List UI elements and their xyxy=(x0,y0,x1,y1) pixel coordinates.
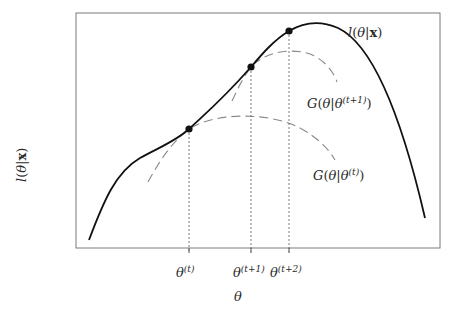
point-theta-t xyxy=(185,125,192,132)
em-diagram: l(θ|x) G(θ|θ(t+1)) G(θ|θ(t)) θ(t) θ(t+1)… xyxy=(0,0,460,313)
surrogate-curve-t1 xyxy=(232,51,337,101)
tick-label-theta-t2: θ(t+2) xyxy=(270,264,302,280)
tick-label-theta-t: θ(t) xyxy=(176,264,195,280)
point-theta-t2 xyxy=(285,27,292,34)
surrogate-curve-t xyxy=(148,116,335,182)
point-theta-t1 xyxy=(247,63,254,70)
x-axis-label: θ xyxy=(234,289,242,304)
tick-label-theta-t1: θ(t+1) xyxy=(233,264,265,280)
y-axis-label: l(θ|x) xyxy=(14,148,29,182)
likelihood-curve xyxy=(89,23,425,240)
likelihood-label: l(θ|x) xyxy=(348,25,382,40)
surrogate-label-t1: G(θ|θ(t+1)) xyxy=(307,95,372,111)
surrogate-label-t: G(θ|θ(t)) xyxy=(313,167,364,183)
plot-frame xyxy=(76,13,440,248)
